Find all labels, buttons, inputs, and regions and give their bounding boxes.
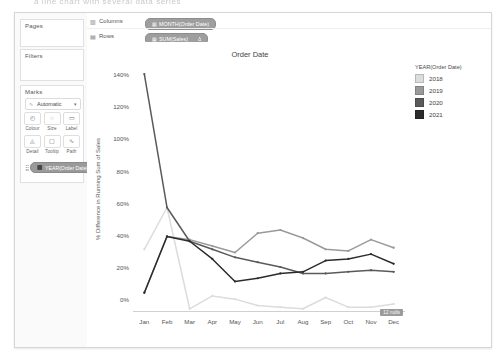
data-point[interactable] xyxy=(166,206,168,208)
marks-detail-label: Detail xyxy=(24,149,41,154)
data-point[interactable] xyxy=(279,229,281,231)
chart-view: Order Date % Difference in Running Sum o… xyxy=(87,42,491,347)
x-tick-label: Jul xyxy=(276,318,284,325)
left-panel: Pages Filters Marks ∿ Automatic ▾ ◴ Colo… xyxy=(15,13,88,347)
marks-detail-button[interactable]: ◬ Detail xyxy=(24,135,41,154)
y-tick-label: 40% xyxy=(117,231,129,238)
columns-icon: ▥ xyxy=(87,18,99,25)
marks-buttons: ◴ Colour ◌ Size ▭ Label xyxy=(24,112,80,158)
y-tick-label: 140% xyxy=(113,71,129,78)
data-point[interactable] xyxy=(211,248,213,250)
marks-label: Marks xyxy=(21,86,83,95)
data-point[interactable] xyxy=(234,251,236,253)
nulls-badge[interactable]: 12 nulls xyxy=(380,309,403,316)
x-tick-label: Jan xyxy=(139,318,149,325)
legend-item[interactable]: 2020 xyxy=(415,98,485,107)
pages-card[interactable]: Pages xyxy=(20,19,84,47)
legend-item[interactable]: 2021 xyxy=(415,110,485,119)
data-point[interactable] xyxy=(143,73,145,75)
data-point[interactable] xyxy=(211,245,213,247)
tooltip-icon: ▢ xyxy=(44,135,61,148)
data-point[interactable] xyxy=(370,253,372,255)
data-point[interactable] xyxy=(325,272,327,274)
data-point[interactable] xyxy=(325,259,327,261)
data-point[interactable] xyxy=(211,258,213,260)
legend-item[interactable]: 2018 xyxy=(415,74,485,83)
marks-size-button[interactable]: ◌ Size xyxy=(44,112,61,131)
data-point[interactable] xyxy=(347,258,349,260)
legend-item[interactable]: 2019 xyxy=(415,86,485,95)
filters-label: Filters xyxy=(21,50,83,59)
columns-shelf-label: Columns xyxy=(99,18,135,24)
legend-label: 2019 xyxy=(429,87,443,94)
data-point[interactable] xyxy=(302,308,304,310)
data-point[interactable] xyxy=(234,256,236,258)
marks-path-button[interactable]: ∿ Path xyxy=(63,135,80,154)
line-series-2018 xyxy=(144,207,393,308)
x-tick-label: Aug xyxy=(297,318,308,325)
rows-icon: ▤ xyxy=(87,33,99,40)
marks-colour-pill-row: ⣿ ⬛ YEAR(Order Date) xyxy=(25,162,95,173)
data-point[interactable] xyxy=(166,235,168,237)
pages-label: Pages xyxy=(21,20,83,29)
data-point[interactable] xyxy=(257,261,259,263)
data-point[interactable] xyxy=(257,232,259,234)
rows-shelf-label: Rows xyxy=(99,33,135,39)
legend-swatch xyxy=(415,98,424,107)
mark-type-dropdown[interactable]: ∿ Automatic ▾ xyxy=(25,98,81,110)
marks-label-button[interactable]: ▭ Label xyxy=(63,112,80,131)
data-point[interactable] xyxy=(347,271,349,273)
data-point[interactable] xyxy=(370,269,372,271)
data-point[interactable] xyxy=(211,295,213,297)
data-point[interactable] xyxy=(370,306,372,308)
y-tick-label: 60% xyxy=(117,199,129,206)
marks-path-label: Path xyxy=(63,149,80,154)
colour-icon: ◴ xyxy=(24,112,41,125)
y-tick-label: 120% xyxy=(113,103,129,110)
data-point[interactable] xyxy=(257,304,259,306)
data-point[interactable] xyxy=(325,248,327,250)
legend-swatch xyxy=(415,86,424,95)
legend-label: 2018 xyxy=(429,75,443,82)
mark-type-value: Automatic xyxy=(37,101,61,107)
filters-card[interactable]: Filters xyxy=(20,49,84,81)
data-point[interactable] xyxy=(347,250,349,252)
data-point[interactable] xyxy=(347,306,349,308)
data-point[interactable] xyxy=(302,271,304,273)
y-tick-label: 80% xyxy=(117,167,129,174)
marks-tooltip-button[interactable]: ▢ Tooltip xyxy=(44,135,61,154)
marks-size-label: Size xyxy=(44,126,61,131)
marks-card: Marks ∿ Automatic ▾ ◴ Colour ◌ Size xyxy=(20,85,84,183)
legend-items: 2018201920202021 xyxy=(415,74,485,119)
marks-colour-pill[interactable]: ⬛ YEAR(Order Date) xyxy=(30,162,95,173)
data-point[interactable] xyxy=(393,271,395,273)
data-point[interactable] xyxy=(279,306,281,308)
data-point[interactable] xyxy=(393,303,395,305)
x-tick-label: Nov xyxy=(365,318,376,325)
data-point[interactable] xyxy=(189,240,191,242)
y-tick-label: 100% xyxy=(113,135,129,142)
x-tick-label: Sep xyxy=(320,318,331,325)
data-point[interactable] xyxy=(325,296,327,298)
rows-shelf[interactable]: ▤ Rows ▦ SUM(Sales) Δ xyxy=(87,28,491,43)
data-point[interactable] xyxy=(279,272,281,274)
cropped-caption-text: a line chart with several data series xyxy=(34,0,503,6)
data-point[interactable] xyxy=(279,266,281,268)
data-point[interactable] xyxy=(189,308,191,310)
y-axis-title: % Difference in Running Sum of Sales xyxy=(93,66,103,312)
data-point[interactable] xyxy=(370,239,372,241)
data-point[interactable] xyxy=(143,248,145,250)
chart-title: Order Date xyxy=(87,50,413,59)
marks-tooltip-label: Tooltip xyxy=(44,149,61,154)
data-point[interactable] xyxy=(234,298,236,300)
data-point[interactable] xyxy=(234,280,236,282)
data-point[interactable] xyxy=(302,237,304,239)
tableau-window: Pages Filters Marks ∿ Automatic ▾ ◴ Colo… xyxy=(14,12,492,348)
marks-colour-button[interactable]: ◴ Colour xyxy=(24,112,41,131)
data-point[interactable] xyxy=(257,277,259,279)
data-point[interactable] xyxy=(393,263,395,265)
data-point[interactable] xyxy=(143,292,145,294)
x-tick-label: Jun xyxy=(253,318,263,325)
marks-button-row: ◴ Colour ◌ Size ▭ Label xyxy=(24,112,80,131)
data-point[interactable] xyxy=(393,247,395,249)
